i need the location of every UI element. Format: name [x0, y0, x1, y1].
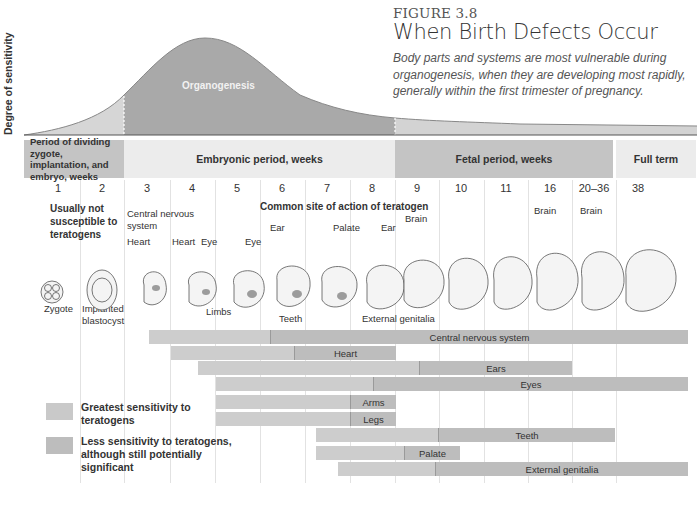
week-label: 3: [125, 182, 169, 194]
ear-label-week9: Ear: [381, 222, 396, 233]
bar-central-nervous-system: Central nervous system: [149, 330, 688, 344]
bar-arms: Arms: [216, 395, 396, 409]
week-label: 5: [215, 182, 259, 194]
bar-label: Teeth: [438, 428, 615, 442]
bar-label: Central nervous system: [270, 330, 688, 344]
bar-label: Eyes: [373, 377, 688, 391]
development-illustrations: [24, 240, 697, 320]
bar-label: Legs: [350, 412, 396, 426]
week-label: 16: [528, 182, 572, 194]
brain-label-week16: Brain: [534, 205, 556, 216]
week-label: 9: [395, 182, 439, 194]
week-label: 7: [305, 182, 349, 194]
brain-label-week20: Brain: [580, 205, 602, 216]
legend-swatch-greatest: [46, 403, 73, 420]
legend-label-less: Less sensitivity to teratogens, although…: [81, 435, 251, 474]
bar-ears: Ears: [198, 361, 572, 375]
period-fetal: Fetal period, weeks: [395, 140, 613, 178]
legend-label-greatest: Greatest sensitivity to teratogens: [81, 401, 211, 427]
bar-label: Ears: [419, 361, 572, 375]
bar-label: External genitalia: [435, 462, 688, 476]
period-embryonic: Embryonic period, weeks: [124, 140, 395, 178]
organogenesis-label: Organogenesis: [182, 80, 255, 91]
period-full-term: Full term: [616, 140, 696, 178]
bar-heart: Heart: [171, 346, 396, 360]
week-label: 4: [170, 182, 214, 194]
week-label: 10: [439, 182, 483, 194]
week-label: 2: [80, 182, 124, 194]
brain-label-week9: Brain: [405, 213, 427, 224]
common-site-heading: Common site of action of teratogen: [260, 200, 428, 213]
week-label: 8: [350, 182, 394, 194]
period-pre-embryonic: Period of dividing zygote, implantation,…: [24, 140, 124, 178]
week-label: 38: [616, 182, 660, 194]
bar-legs: Legs: [216, 412, 396, 426]
bar-label: Arms: [350, 395, 396, 409]
week-label: 6: [260, 182, 304, 194]
palate-label: Palate: [333, 222, 360, 233]
legend-swatch-less: [46, 437, 73, 454]
ear-label-week6: Ear: [270, 222, 285, 233]
bar-label: Palate: [404, 446, 460, 460]
bar-label: Heart: [294, 346, 396, 360]
week-label: 11: [484, 182, 528, 194]
week-label: 1: [36, 182, 80, 194]
week-label: 20–36: [572, 182, 616, 194]
bar-eyes: Eyes: [216, 377, 688, 391]
not-susceptible-note: Usually not susceptible to teratogens: [50, 202, 120, 241]
sensitivity-curve: [0, 0, 697, 140]
bar-teeth: Teeth: [316, 428, 615, 442]
bar-palate: Palate: [316, 446, 460, 460]
bar-external-genitalia: External genitalia: [338, 462, 688, 476]
cns-label: Central nervous system: [127, 208, 207, 232]
